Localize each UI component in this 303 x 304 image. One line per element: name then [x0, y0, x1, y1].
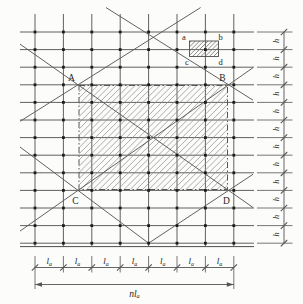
grid-node-dot	[119, 171, 122, 174]
grid-node-dot	[232, 83, 235, 86]
diagram-svg: ABCDabcdhhhhhhhhhhhhlalalalalalalanla	[0, 0, 303, 304]
grid-node-dot	[204, 101, 207, 104]
grid-node-dot	[119, 31, 122, 34]
grid-node-dot	[119, 224, 122, 227]
grid-node-dot	[204, 119, 207, 122]
grid-node-dot	[147, 207, 150, 210]
grid-node-dot	[176, 171, 179, 174]
grid-node-dot	[62, 66, 65, 69]
grid-node-dot	[176, 136, 179, 139]
grid-node-dot	[119, 154, 122, 157]
diagram-background	[0, 0, 303, 304]
row-spacing-label-11: h	[271, 232, 281, 236]
grid-node-dot	[119, 207, 122, 210]
grid-node-dot	[232, 242, 235, 245]
diagram-page: ABCDabcdhhhhhhhhhhhhlalalalalalalanla	[0, 0, 303, 304]
grid-node-dot	[147, 119, 150, 122]
grid-node-dot	[62, 83, 65, 86]
grid-node-dot	[90, 48, 93, 51]
grid-node-dot	[90, 207, 93, 210]
grid-node-dot	[232, 136, 235, 139]
grid-node-dot	[204, 66, 207, 69]
grid-node-dot	[176, 154, 179, 157]
grid-node-dot	[176, 66, 179, 69]
row-spacing-label-4: h	[271, 109, 281, 113]
grid-node-dot	[62, 48, 65, 51]
cell-corner-label-a: a	[182, 32, 186, 42]
cell-corner-label-b: b	[218, 32, 222, 42]
panel-corner-label-A: A	[68, 73, 75, 83]
grid-node-dot	[147, 189, 150, 192]
grid-node-dot	[90, 154, 93, 157]
grid-node-dot	[119, 136, 122, 139]
grid-node-dot	[204, 31, 207, 34]
row-spacing-label-5: h	[271, 127, 281, 131]
grid-node-dot	[62, 136, 65, 139]
grid-node-dot	[204, 207, 207, 210]
grid-node-dot	[119, 242, 122, 245]
grid-node-dot	[62, 189, 65, 192]
grid-node-dot	[62, 31, 65, 34]
grid-node-dot	[176, 119, 179, 122]
grid-node-dot	[62, 154, 65, 157]
grid-node-dot	[90, 224, 93, 227]
grid-node-dot	[204, 154, 207, 157]
grid-node-dot	[204, 189, 207, 192]
row-spacing-label-6: h	[271, 144, 281, 148]
grid-node-dot	[204, 48, 207, 51]
grid-node-dot	[176, 83, 179, 86]
grid-node-dot	[34, 101, 37, 104]
grid-node-dot	[232, 171, 235, 174]
row-spacing-label-9: h	[271, 197, 281, 201]
grid-node-dot	[119, 83, 122, 86]
grid-node-dot	[147, 66, 150, 69]
grid-node-dot	[147, 48, 150, 51]
row-spacing-label-0: h	[271, 39, 281, 43]
grid-node-dot	[62, 101, 65, 104]
row-spacing-label-10: h	[271, 215, 281, 219]
grid-node-dot	[176, 48, 179, 51]
grid-node-dot	[232, 119, 235, 122]
grid-node-dot	[232, 224, 235, 227]
grid-node-dot	[62, 207, 65, 210]
grid-node-dot	[62, 119, 65, 122]
grid-node-dot	[62, 171, 65, 174]
grid-node-dot	[232, 154, 235, 157]
cell-corner-label-c: c	[185, 57, 189, 67]
grid-node-dot	[204, 83, 207, 86]
grid-node-dot	[90, 66, 93, 69]
row-spacing-label-8: h	[271, 179, 281, 183]
grid-node-dot	[34, 31, 37, 34]
panel-corner-label-D: D	[223, 196, 230, 206]
grid-node-dot	[62, 224, 65, 227]
grid-node-dot	[176, 207, 179, 210]
grid-node-dot	[147, 242, 150, 245]
grid-node-dot	[232, 207, 235, 210]
grid-node-dot	[176, 224, 179, 227]
row-spacing-label-7: h	[271, 162, 281, 166]
grid-node-dot	[147, 224, 150, 227]
grid-node-dot	[119, 66, 122, 69]
panel-corner-label-B: B	[219, 73, 225, 83]
grid-node-dot	[204, 171, 207, 174]
grid-node-dot	[34, 48, 37, 51]
grid-node-dot	[90, 242, 93, 245]
grid-node-dot	[90, 136, 93, 139]
row-spacing-label-1: h	[271, 56, 281, 60]
grid-node-dot	[119, 101, 122, 104]
grid-node-dot	[232, 31, 235, 34]
grid-node-dot	[147, 31, 150, 34]
grid-node-dot	[147, 101, 150, 104]
grid-node-dot	[147, 154, 150, 157]
grid-node-dot	[232, 48, 235, 51]
grid-node-dot	[90, 119, 93, 122]
grid-node-dot	[119, 48, 122, 51]
grid-node-dot	[62, 242, 65, 245]
grid-node-dot	[147, 83, 150, 86]
grid-node-dot	[90, 171, 93, 174]
grid-node-dot	[34, 83, 37, 86]
grid-node-dot	[34, 242, 37, 245]
grid-node-dot	[119, 189, 122, 192]
grid-node-dot	[90, 189, 93, 192]
grid-node-dot	[232, 189, 235, 192]
